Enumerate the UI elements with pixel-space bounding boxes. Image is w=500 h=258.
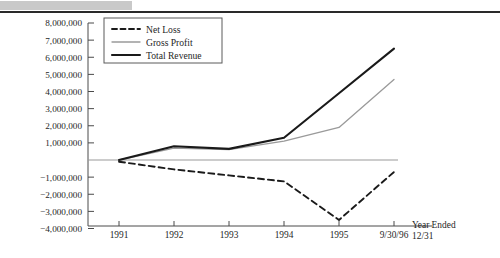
y-tick-label: 6,000,000 (45, 53, 82, 63)
y-tick-label: −3,000,000 (40, 207, 82, 217)
series-line-net-loss (119, 162, 394, 220)
financial-line-chart: 8,000,0007,000,0006,000,0005,000,0004,00… (0, 13, 500, 258)
chart-legend: Net LossGross ProfitTotal Revenue (104, 18, 222, 63)
x-tick-label: 1992 (165, 230, 184, 240)
legend-label-total-revenue: Total Revenue (146, 50, 202, 61)
y-tick-label: −4,000,000 (40, 224, 82, 234)
y-tick-label: 3,000,000 (45, 104, 82, 114)
chart-canvas: 8,000,0007,000,0006,000,0005,000,0004,00… (0, 13, 500, 258)
legend-label-gross-profit: Gross Profit (146, 37, 193, 48)
x-tick-label: 1995 (330, 230, 349, 240)
x-tick-label: 1994 (275, 230, 294, 240)
x-tick-label: 1993 (220, 230, 239, 240)
y-tick-label: 7,000,000 (45, 36, 82, 46)
header-gray-block (0, 1, 132, 10)
x-axis-caption-line1: Year Ended (412, 220, 456, 230)
y-axis: 8,000,0007,000,0006,000,0005,000,0004,00… (40, 18, 94, 234)
x-axis-caption: Year Ended 12/31 (412, 220, 456, 241)
x-tick-label: 9/30/96 (380, 230, 409, 240)
legend-label-net-loss: Net Loss (146, 24, 181, 35)
x-axis-caption-line2: 12/31 (412, 231, 434, 241)
x-tick-label: 1991 (110, 230, 129, 240)
y-tick-label: 5,000,000 (45, 70, 82, 80)
x-axis: 199119921993199419959/30/96 (88, 221, 432, 240)
series-line-gross-profit (119, 80, 394, 160)
data-series-group (119, 49, 394, 220)
y-tick-label: 8,000,000 (45, 18, 82, 28)
y-tick-label: 1,000,000 (45, 138, 82, 148)
y-tick-label: 4,000,000 (45, 87, 82, 97)
y-tick-label: −1,000,000 (40, 173, 82, 183)
series-line-total-revenue (119, 49, 394, 160)
y-tick-label: 2,000,000 (45, 121, 82, 131)
y-tick-label: −2,000,000 (40, 190, 82, 200)
